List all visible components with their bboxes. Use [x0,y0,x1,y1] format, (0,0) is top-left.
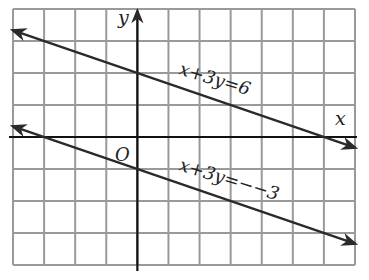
graph-line-2 [13,126,355,243]
graph-line-1 [13,30,355,147]
coordinate-plane: y x O x+3y=6 x+3y=−−3 [0,0,369,280]
origin-label: O [115,144,130,165]
line1-label: x+3y=6 [177,58,253,100]
line2-label: x+3y=−−3 [177,154,282,204]
y-axis-label: y [117,6,129,28]
x-axis-label: x [335,107,346,129]
